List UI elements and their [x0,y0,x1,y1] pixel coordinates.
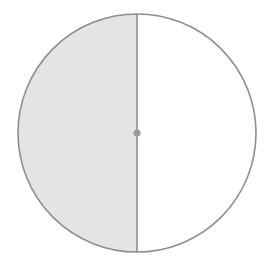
shaded-left-semicircle [18,14,137,252]
center-point-dot [133,129,140,136]
circle-diagram [0,0,277,265]
figure-canvas [0,0,277,265]
